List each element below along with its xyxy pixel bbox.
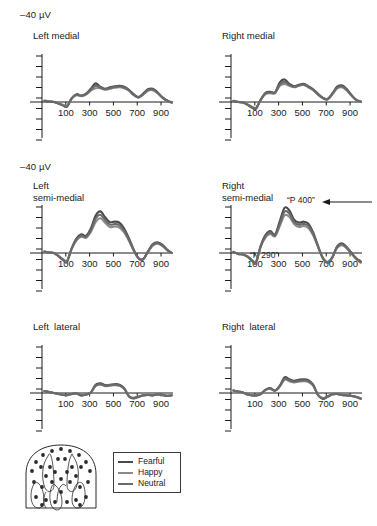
waveform-plot-right-semi-medial: 100300500700900 — [219, 203, 364, 291]
plot-left-medial: 100300500700900 — [30, 52, 175, 140]
infant-head-electrode-schematic — [22, 442, 100, 514]
electrode-dot — [40, 485, 44, 489]
time-tick-label: 700 — [318, 107, 334, 118]
electrode-dot — [86, 480, 90, 484]
electrode-dot — [79, 465, 83, 469]
electrode-dot — [34, 460, 38, 464]
waveform-trace-fearful — [233, 207, 360, 264]
panel-title-left-medial: Left medial — [33, 30, 79, 42]
electrode-dot — [41, 453, 45, 457]
waveform-trace-fearful — [44, 83, 171, 106]
time-tick-label: 100 — [247, 398, 263, 409]
time-tick-label: 500 — [105, 258, 121, 269]
waveform-trace-happy — [44, 218, 171, 261]
legend-label: Fearful — [138, 456, 164, 467]
waveform-trace-neutral — [233, 378, 360, 398]
waveform-trace-fearful — [233, 79, 360, 109]
electrode-dot — [84, 495, 88, 499]
legend: FearfulHappyNeutral — [113, 452, 181, 493]
panel-title-right-semi-medial: Right semi-medial — [222, 180, 273, 203]
legend-item-neutral: Neutral — [118, 478, 175, 489]
electrode-dot — [68, 480, 72, 484]
electrode-dot — [53, 500, 57, 504]
electrode-dot — [59, 447, 63, 451]
time-tick-label: 700 — [129, 107, 145, 118]
time-tick-label: 900 — [342, 107, 358, 118]
electrode-dot — [30, 469, 34, 473]
legend-swatch-fearful — [118, 461, 133, 463]
waveform-plot-right-medial: 100300500700900 — [219, 52, 364, 140]
plot-right-medial: 100300500700900 — [219, 52, 364, 140]
panel-title-left-semi-medial: Left semi-medial — [33, 180, 84, 203]
panel-title-left-lateral: Left lateral — [33, 321, 80, 333]
waveform-trace-neutral — [233, 82, 360, 109]
electrode-dot — [88, 469, 92, 473]
electrode-dot — [59, 477, 63, 481]
waveform-plot-left-semi-medial: 100300500700900 — [30, 203, 175, 291]
waveform-trace-fearful — [44, 211, 171, 262]
time-tick-label: 100 — [58, 398, 74, 409]
electrode-dot — [53, 470, 57, 474]
electrode-dot — [65, 500, 69, 504]
time-tick-label: 500 — [294, 107, 310, 118]
time-tick-label: 500 — [294, 398, 310, 409]
time-tick-label: 100 — [58, 107, 74, 118]
electrode-dot — [44, 474, 48, 478]
electrode-dot — [40, 503, 44, 507]
legend-item-fearful: Fearful — [118, 456, 175, 467]
legend-item-happy: Happy — [118, 467, 175, 478]
legend-label: Happy — [138, 467, 163, 478]
time-tick-label: 300 — [271, 258, 287, 269]
plot-left-semi-medial: 100300500700900 — [30, 203, 175, 291]
time-tick-label: 700 — [129, 398, 145, 409]
waveform-plot-left-lateral: 100300500700900 — [30, 343, 175, 431]
electrode-dot — [34, 495, 38, 499]
panel-title-right-lateral: Right lateral — [222, 321, 275, 333]
electrode-dot — [56, 457, 60, 461]
time-tick-label: 500 — [105, 398, 121, 409]
waveform-plot-left-medial: 100300500700900 — [30, 52, 175, 140]
electrode-dot — [77, 453, 81, 457]
time-tick-label: 900 — [153, 258, 169, 269]
electrode-dot — [48, 465, 52, 469]
waveform-trace-happy — [233, 84, 360, 108]
legend-label: Neutral — [138, 478, 165, 489]
head-region-contour — [50, 484, 62, 510]
plot-left-lateral: 100300500700900 — [30, 343, 175, 431]
time-tick-label: 900 — [153, 398, 169, 409]
legend-swatch-neutral — [118, 483, 133, 485]
waveform-plot-right-lateral: 100300500700900 — [219, 343, 364, 431]
electrode-dot — [32, 480, 36, 484]
time-tick-label: 900 — [153, 107, 169, 118]
scale-label-top: –40 µV — [20, 9, 51, 20]
time-tick-label: 300 — [82, 107, 98, 118]
legend-swatch-happy — [118, 472, 133, 474]
electrode-dot — [68, 449, 72, 453]
waveform-trace-neutral — [233, 211, 360, 263]
electrode-dot — [84, 460, 88, 464]
time-tick-label: 700 — [318, 398, 334, 409]
waveform-trace-neutral — [44, 384, 171, 398]
time-tick-label: 300 — [271, 398, 287, 409]
time-tick-label: 900 — [342, 398, 358, 409]
plot-right-lateral: 100300500700900 — [219, 343, 364, 431]
time-tick-label: 300 — [82, 398, 98, 409]
time-tick-label: 300 — [82, 258, 98, 269]
electrode-dot — [70, 465, 74, 469]
electrode-dot — [74, 498, 78, 502]
time-tick-label: 300 — [271, 107, 287, 118]
electrode-dot — [50, 449, 54, 453]
electrode-dot — [50, 480, 54, 484]
electrode-dot — [39, 465, 43, 469]
electrode-dot — [78, 503, 82, 507]
electrode-dot — [44, 498, 48, 502]
head-schematic-svg — [22, 442, 100, 514]
scale-label-mid: –40 µV — [20, 161, 51, 172]
electrode-dot — [59, 490, 63, 494]
waveform-trace-neutral — [44, 215, 171, 262]
electrode-dot — [78, 485, 82, 489]
electrode-dot — [65, 470, 69, 474]
erp-figure: –40 µV –40 µV Left medial Right medial L… — [0, 0, 377, 526]
time-tick-label: 500 — [105, 107, 121, 118]
time-tick-label: 500 — [294, 258, 310, 269]
